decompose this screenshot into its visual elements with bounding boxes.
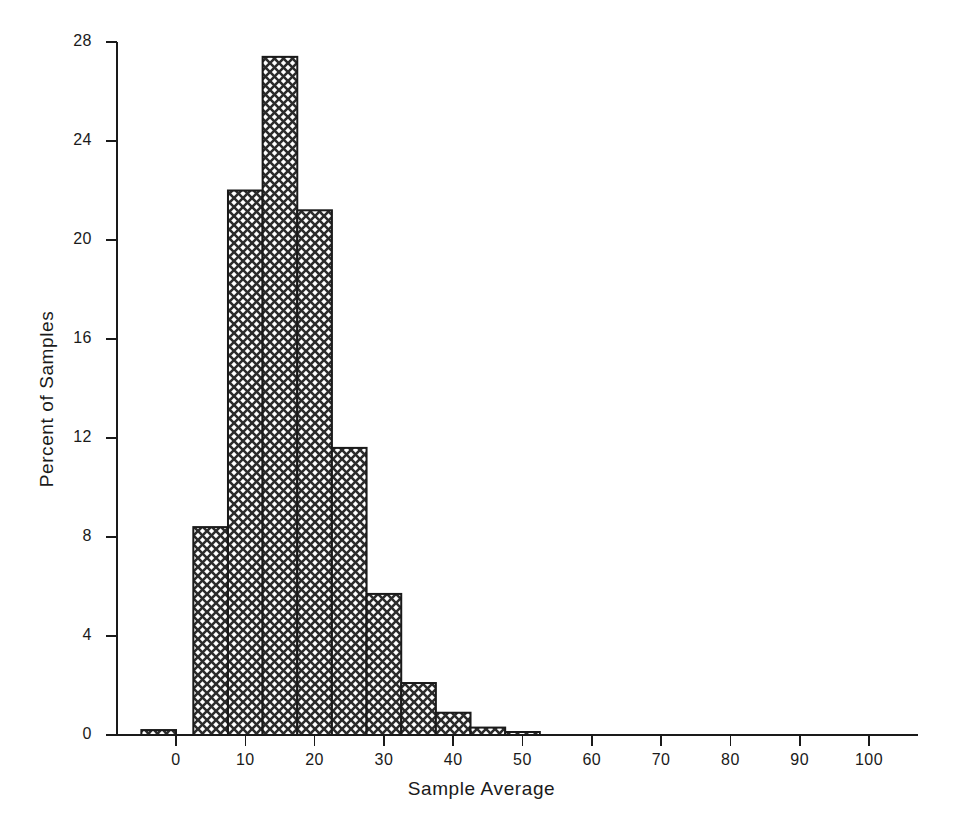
x-axis-tick-label: 60: [567, 751, 617, 769]
x-axis-tick-label: 70: [636, 751, 686, 769]
x-axis-tick-label: 90: [775, 751, 825, 769]
y-axis-tick-label: 4: [52, 626, 92, 644]
histogram-bar: [228, 191, 263, 736]
histogram-bar: [401, 683, 436, 735]
x-axis-tick-label: 40: [428, 751, 478, 769]
chart-canvas: [0, 0, 963, 823]
histogram-bar: [436, 713, 471, 735]
x-axis-title: Sample Average: [0, 778, 963, 800]
x-axis-tick-label: 30: [359, 751, 409, 769]
histogram-bar: [367, 594, 402, 735]
histogram-bar: [263, 57, 298, 735]
y-axis-tick-label: 28: [52, 32, 92, 50]
histogram-figure: 0481216202428 0102030405060708090100 Sam…: [0, 0, 963, 823]
x-axis-tick-label: 80: [705, 751, 755, 769]
y-axis-tick-label: 24: [52, 131, 92, 149]
histogram-bar: [505, 732, 540, 735]
y-axis-tick-label: 20: [52, 230, 92, 248]
y-axis-tick-label: 12: [52, 428, 92, 446]
y-axis-title: Percent of Samples: [36, 259, 58, 539]
histogram-bar: [193, 527, 228, 735]
x-axis-tick-label: 0: [151, 751, 201, 769]
bars-layer: [141, 57, 539, 735]
plot-area: 0481216202428 0102030405060708090100: [0, 0, 963, 823]
x-axis-tick-label: 20: [290, 751, 340, 769]
x-axis-tick-label: 100: [844, 751, 894, 769]
x-axis-tick-label: 50: [498, 751, 548, 769]
histogram-bar: [141, 730, 176, 735]
histogram-bar: [297, 210, 332, 735]
y-axis-tick-label: 0: [52, 725, 92, 743]
x-axis-tick-label: 10: [220, 751, 270, 769]
y-axis-tick-label: 8: [52, 527, 92, 545]
histogram-bar: [471, 728, 506, 735]
histogram-bar: [332, 448, 367, 735]
y-axis-tick-label: 16: [52, 329, 92, 347]
